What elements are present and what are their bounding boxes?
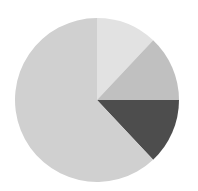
pie-chart	[0, 0, 198, 191]
pie-slices	[15, 18, 179, 182]
